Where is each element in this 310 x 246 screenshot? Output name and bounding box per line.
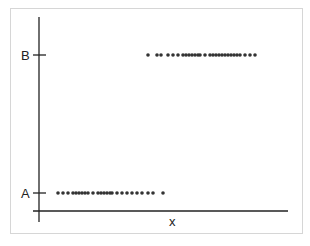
data-point: [248, 53, 252, 57]
data-points: [56, 53, 257, 195]
data-point: [66, 191, 70, 195]
data-point: [91, 191, 95, 195]
data-point: [171, 53, 175, 57]
data-point: [140, 191, 144, 195]
data-point: [198, 53, 202, 57]
data-point: [115, 191, 119, 195]
data-point: [120, 191, 124, 195]
data-point: [151, 191, 155, 195]
data-point: [253, 53, 257, 57]
data-point: [159, 53, 163, 57]
data-point: [125, 191, 129, 195]
data-point: [203, 53, 207, 57]
data-point: [86, 191, 90, 195]
data-point: [146, 191, 150, 195]
data-point: [166, 53, 170, 57]
scatter-chart: B A x: [0, 0, 310, 246]
data-point: [238, 53, 242, 57]
data-point: [61, 191, 65, 195]
data-point: [56, 191, 60, 195]
y-tick-label-a: A: [21, 186, 30, 201]
data-point: [146, 53, 150, 57]
x-axis-label: x: [169, 214, 176, 229]
data-point: [110, 191, 114, 195]
y-tick-label-b: B: [21, 48, 30, 63]
data-point: [155, 53, 159, 57]
data-point: [135, 191, 139, 195]
data-point: [243, 53, 247, 57]
data-point: [161, 191, 165, 195]
data-point: [176, 53, 180, 57]
data-point: [130, 191, 134, 195]
